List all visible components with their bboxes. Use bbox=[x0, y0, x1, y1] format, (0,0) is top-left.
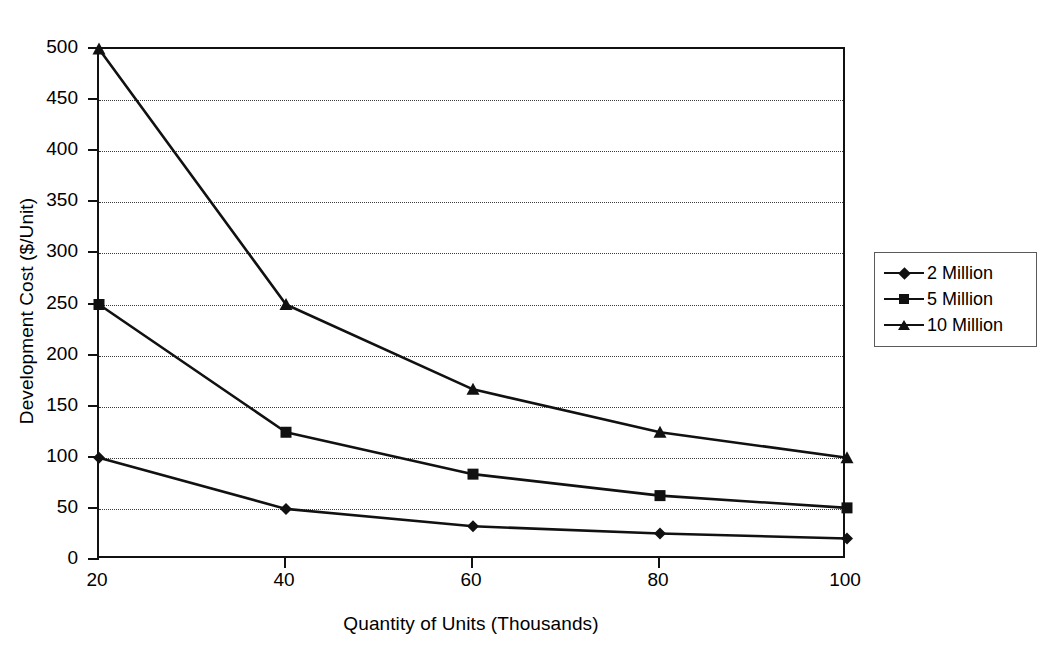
y-tick-label: 50 bbox=[26, 497, 78, 516]
data-point-marker bbox=[94, 299, 105, 310]
y-tick-label: 450 bbox=[26, 88, 78, 107]
data-point-marker bbox=[841, 533, 853, 545]
data-point-marker bbox=[281, 427, 292, 438]
data-point-marker bbox=[654, 527, 666, 539]
x-tick-label: 60 bbox=[441, 570, 501, 589]
y-tick-label: 100 bbox=[26, 446, 78, 465]
x-tick-label: 40 bbox=[254, 570, 314, 589]
y-tick-label: 300 bbox=[26, 241, 78, 260]
diamond-marker-icon bbox=[898, 267, 911, 280]
y-axis-tick-labels: 050100150200250300350400450500 bbox=[26, 0, 78, 664]
x-axis-title: Quantity of Units (Thousands) bbox=[97, 613, 845, 635]
series-10-million bbox=[93, 43, 854, 464]
data-point-marker bbox=[842, 502, 853, 513]
legend-label: 2 Million bbox=[924, 263, 993, 283]
y-tick-label: 350 bbox=[26, 190, 78, 209]
legend-label: 10 Million bbox=[924, 315, 1003, 335]
data-point-marker bbox=[655, 490, 666, 501]
x-tick-label: 80 bbox=[628, 570, 688, 589]
x-tick-label: 20 bbox=[67, 570, 127, 589]
legend-marker-square-icon bbox=[884, 289, 924, 309]
y-tick-label: 400 bbox=[26, 139, 78, 158]
triangle-marker-icon bbox=[898, 320, 910, 330]
data-point-marker bbox=[468, 469, 479, 480]
y-tick-label: 500 bbox=[26, 37, 78, 56]
chart-figure: Development Cost ($/Unit) 05010015020025… bbox=[0, 0, 1050, 664]
series-lines bbox=[99, 49, 847, 560]
legend-label: 5 Million bbox=[924, 289, 993, 309]
square-marker-icon bbox=[899, 294, 909, 304]
data-point-marker bbox=[280, 503, 292, 515]
plot-area bbox=[97, 47, 845, 558]
legend-item: 2 Million bbox=[884, 260, 1027, 286]
legend-item: 10 Million bbox=[884, 312, 1027, 338]
legend-marker-triangle-icon bbox=[884, 315, 924, 335]
y-tick-label: 150 bbox=[26, 395, 78, 414]
chart-legend: 2 Million5 Million10 Million bbox=[874, 252, 1037, 347]
legend-item: 5 Million bbox=[884, 286, 1027, 312]
data-point-marker bbox=[467, 383, 480, 395]
y-tick-label: 250 bbox=[26, 293, 78, 312]
y-tick-label: 200 bbox=[26, 344, 78, 363]
data-point-marker bbox=[467, 520, 479, 532]
series-line bbox=[99, 49, 847, 458]
y-tick-label: 0 bbox=[26, 548, 78, 567]
data-point-marker bbox=[93, 452, 105, 464]
y-tick-mark bbox=[88, 558, 99, 560]
x-tick-label: 100 bbox=[815, 570, 875, 589]
series-2-million bbox=[93, 452, 853, 545]
legend-marker-diamond-icon bbox=[884, 263, 924, 283]
series-5-million bbox=[94, 299, 853, 513]
